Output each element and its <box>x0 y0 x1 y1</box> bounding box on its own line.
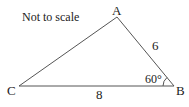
side-label-ab: 6 <box>152 38 159 53</box>
vertex-label-c: C <box>7 83 16 98</box>
vertex-label-a: A <box>112 3 122 18</box>
side-label-cb: 8 <box>96 87 103 102</box>
triangle-diagram: Not to scale A B C 6 8 60° <box>0 0 189 107</box>
not-to-scale-note: Not to scale <box>22 10 79 24</box>
vertex-label-b: B <box>176 83 185 98</box>
side-ca <box>19 17 117 86</box>
angle-label-b: 60° <box>145 72 162 86</box>
angle-b-arc <box>163 78 167 87</box>
